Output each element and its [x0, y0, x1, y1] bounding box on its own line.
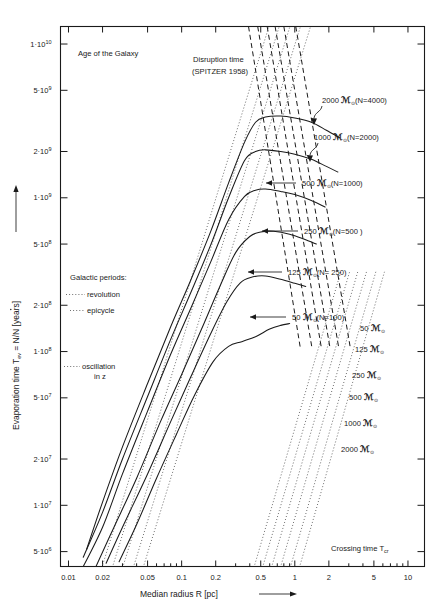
n-dot-accent — [10, 309, 11, 310]
legend-label-epicycle: epicycle — [87, 306, 114, 315]
galactic-period-lines — [100, 24, 311, 574]
disruption-note-line1: Disruption time — [193, 55, 244, 64]
figure-container: 0.010.020.050.10.20.512510 1·10105·1092·… — [0, 0, 447, 613]
callout-arrow-icon — [266, 180, 272, 186]
y-axis-title-text: Evaporation time Tev = N/N [years] — [11, 301, 22, 430]
curve-label: 500 ℳ⊙(N=1000) — [302, 178, 363, 189]
x-tick-label: 0.2 — [210, 573, 220, 582]
x-tick-label: 0.05 — [140, 573, 155, 582]
legend-label-revolution: revolution — [87, 290, 120, 299]
crossing-mass-label: 1000 ℳ⊙ — [344, 418, 377, 429]
x-tick-label: 0.1 — [176, 573, 186, 582]
curve-label: 250 ℳ⊙(N=500 ) — [304, 226, 363, 237]
y-tick-label: 2·109 — [33, 146, 51, 156]
x-axis-tick-labels: 0.010.020.050.10.20.512510 — [61, 573, 412, 582]
y-tick-label: 5·107 — [33, 392, 51, 402]
callout-arrow-icon — [248, 269, 254, 275]
curve-label: 125 ℳ⊙(N= 250) — [288, 267, 347, 278]
y-axis-tick-labels: 1·10105·1092·1091·1095·1082·1081·1085·10… — [30, 39, 51, 557]
callout-hook-line — [314, 106, 322, 118]
legend-heading: Galactic periods: — [70, 273, 127, 282]
galactic-period-line — [131, 24, 301, 574]
x-axis-title-text: Median radius R [pc] — [140, 589, 218, 599]
y-tick-label: 1·1010 — [30, 39, 51, 49]
galactic-period-line — [100, 24, 270, 574]
crossing-mass-label: 2000 ℳ⊙ — [341, 444, 374, 455]
crossing-mass-label: 125 ℳ⊙ — [355, 344, 384, 355]
y-tick-label: 2·108 — [33, 300, 51, 310]
evaporation-time-chart: 0.010.020.050.10.20.512510 1·10105·1092·… — [0, 0, 447, 613]
x-tick-label: 0.02 — [95, 573, 110, 582]
x-axis-title: Median radius R [pc] — [140, 589, 297, 599]
x-tick-label: 1 — [293, 573, 297, 582]
x-tick-label: 0.5 — [256, 573, 266, 582]
y-tick-label: 5·108 — [33, 239, 51, 249]
callout-arrow-icon — [262, 228, 268, 234]
disruption-line — [249, 27, 301, 349]
crossing-mass-label: 250 ℳ⊙ — [352, 370, 381, 381]
legend-label-oscillation-2: in z — [94, 372, 106, 381]
crossing-mass-label: 50 ℳ⊙ — [360, 323, 385, 334]
evaporation-curve — [96, 231, 316, 566]
x-tick-label: 2 — [327, 573, 331, 582]
crossing-note-text: Crossing time T — [331, 544, 384, 553]
y-tick-label: 5·109 — [33, 85, 51, 95]
evaporation-curves — [81, 116, 340, 572]
crossing-time-note: Crossing time Tcr — [331, 544, 389, 554]
disruption-note-line2: (SPITZER 1958) — [192, 67, 249, 76]
y-tick-label: 1·107 — [33, 500, 51, 510]
crossing-mass-labels: 50 ℳ⊙125 ℳ⊙250 ℳ⊙500 ℳ⊙1000 ℳ⊙2000 ℳ⊙ — [341, 323, 385, 455]
callout-arrow-icon — [250, 314, 256, 320]
y-axis-arrow-icon — [13, 185, 18, 192]
evaporation-curve — [83, 150, 338, 557]
y-axis-title-main: Evaporation time T — [11, 359, 21, 430]
curve-label: 50 ℳ⊙(N=100) — [292, 312, 345, 323]
y-tick-label: 2·107 — [33, 454, 51, 464]
crossing-mass-label: 500 ℳ⊙ — [349, 392, 378, 403]
y-axis-title-rest: = N/N [years] — [11, 301, 21, 353]
y-axis-title: Evaporation time Tev = N/N [years] — [10, 185, 22, 430]
crossing-note-sub: cr — [384, 548, 389, 554]
y-tick-label: 5·106 — [33, 546, 51, 556]
disruption-time-note: Disruption time (SPITZER 1958) — [192, 55, 249, 76]
x-tick-label: 5 — [372, 573, 376, 582]
curve-label: 1000 ℳ⊙(N=2000) — [314, 132, 379, 143]
galactic-period-line — [141, 24, 311, 574]
evaporation-curve — [119, 324, 290, 562]
y-tick-label: 1·109 — [33, 192, 51, 202]
galactic-periods-legend: Galactic periods: revolution epicycle os… — [64, 273, 127, 381]
x-tick-label: 0.01 — [61, 573, 76, 582]
legend-label-oscillation-1: oscillation — [82, 362, 115, 371]
age-of-galaxy-note: Age of the Galaxy — [78, 49, 139, 58]
curve-label: 2000 ℳ⊙(N=4000) — [322, 95, 387, 106]
y-tick-label: 1·108 — [33, 346, 51, 356]
galactic-period-line — [121, 24, 291, 574]
x-axis-arrow-icon — [290, 591, 297, 596]
x-tick-label: 10 — [404, 573, 412, 582]
